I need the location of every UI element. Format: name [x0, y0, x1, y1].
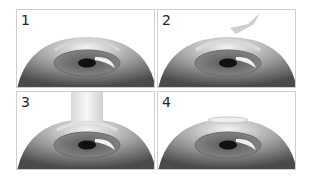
step-number: 2	[162, 12, 171, 28]
panel-step-4: 4	[157, 91, 296, 170]
instrument-icon	[230, 13, 260, 34]
eye-illustration-icon	[17, 92, 155, 170]
panel-step-1: 1	[16, 9, 155, 88]
eye-illustration-icon	[158, 10, 296, 88]
laser-beam-icon	[71, 92, 103, 124]
flap-icon	[208, 117, 248, 123]
eye-illustration-icon	[158, 92, 296, 170]
step-number: 3	[21, 94, 30, 110]
panel-step-2: 2	[157, 9, 296, 88]
eye-illustration-icon	[17, 10, 155, 88]
step-number: 4	[162, 94, 171, 110]
panel-step-3: 3	[16, 91, 155, 170]
step-number: 1	[21, 12, 30, 28]
